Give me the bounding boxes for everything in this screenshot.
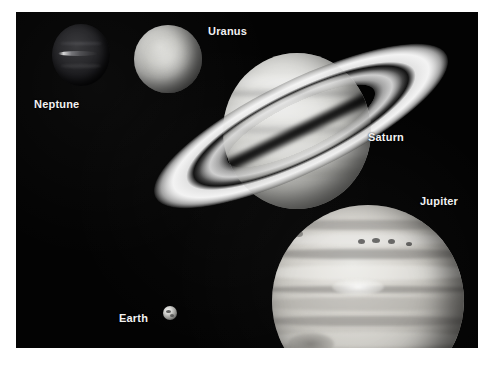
jupiter-planet bbox=[272, 205, 464, 348]
jupiter-band-1 bbox=[272, 220, 464, 230]
label-saturn: Saturn bbox=[368, 131, 404, 143]
jupiter-dark-spot-3 bbox=[388, 239, 395, 244]
jupiter-band-7 bbox=[272, 316, 464, 326]
jupiter-white-storm bbox=[332, 279, 384, 295]
jupiter-dark-spot-2 bbox=[372, 238, 380, 243]
label-earth: Earth bbox=[119, 312, 148, 324]
jupiter-band-6 bbox=[272, 297, 464, 310]
neptune-planet bbox=[52, 24, 110, 86]
neptune-bright-streak bbox=[58, 51, 98, 56]
label-neptune: Neptune bbox=[34, 98, 79, 110]
label-jupiter: Jupiter bbox=[420, 195, 458, 207]
earth-surface-mark-1 bbox=[166, 310, 171, 313]
jupiter-dark-spot-4 bbox=[406, 242, 412, 246]
neptune-cloud-band-lower bbox=[61, 64, 101, 68]
jupiter-great-red-spot bbox=[288, 333, 334, 348]
space-scene: Neptune Uranus bbox=[16, 12, 478, 348]
neptune-cloud-band-upper bbox=[60, 42, 102, 45]
earth-planet bbox=[163, 306, 177, 320]
earth-surface-mark-2 bbox=[170, 314, 174, 317]
photo-frame: Neptune Uranus bbox=[0, 0, 497, 365]
jupiter-dark-spot-1 bbox=[358, 239, 365, 244]
jupiter-dark-spot-5 bbox=[294, 231, 303, 237]
jupiter-band-4 bbox=[272, 265, 464, 280]
jupiter-band-3 bbox=[272, 249, 464, 259]
